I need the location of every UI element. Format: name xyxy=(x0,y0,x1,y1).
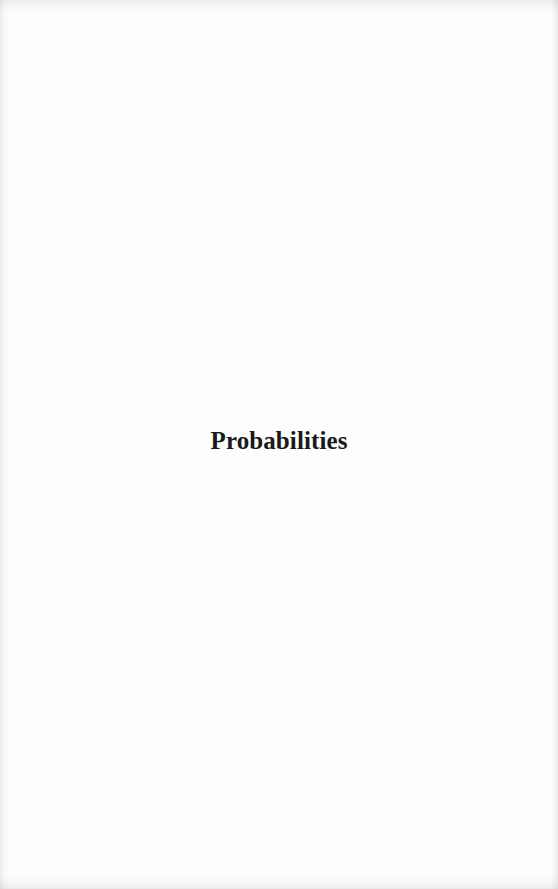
book-page: Probabilities xyxy=(0,0,558,889)
page-title: Probabilities xyxy=(0,424,558,458)
